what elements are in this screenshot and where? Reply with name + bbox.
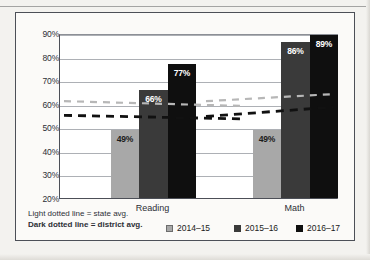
gridline: [60, 35, 337, 36]
legend-item[interactable]: 2016–17: [296, 223, 340, 233]
legend-item[interactable]: 2015–16: [234, 223, 278, 233]
page-top-rule: [0, 6, 370, 7]
legend-item-label: 2016–17: [307, 223, 340, 233]
bar: 86%: [281, 42, 310, 198]
y-axis-tick: 50%: [19, 123, 59, 133]
page-edge-bottom: [0, 254, 370, 260]
y-axis-tick: 60%: [19, 100, 59, 110]
bar: 77%: [168, 64, 197, 198]
legend-swatch-icon: [166, 225, 173, 232]
legend-note-district: Dark dotted line = district avg.: [28, 219, 142, 230]
bar: 49%: [111, 130, 140, 198]
legend-swatch-icon: [296, 225, 303, 232]
legend-swatch-icon: [234, 225, 241, 232]
bar-value-label: 49%: [111, 134, 140, 144]
legend-item-label: 2015–16: [245, 223, 278, 233]
y-axis-tick: 20%: [19, 194, 59, 204]
y-axis-tick: 80%: [19, 53, 59, 63]
legend-note-state: Light dotted line = state avg.: [28, 208, 142, 219]
y-axis-tick: 90%: [19, 29, 59, 39]
bar: 66%: [139, 90, 168, 198]
bar-value-label: 49%: [253, 134, 282, 144]
bar-value-label: 77%: [168, 68, 197, 78]
bar-value-label: 86%: [281, 46, 310, 56]
bar-value-label: 89%: [310, 39, 339, 49]
chart-legend: Light dotted line = state avg. Dark dott…: [16, 206, 356, 240]
bar: 49%: [253, 130, 282, 198]
legend-item[interactable]: 2014–15: [166, 223, 210, 233]
bar: 89%: [310, 35, 339, 198]
page-background: 20%30%40%50%60%70%80%90% 49%66%77%49%86%…: [0, 0, 370, 260]
plot-area: 49%66%77%49%86%89%: [59, 34, 338, 199]
y-axis-tick: 70%: [19, 76, 59, 86]
y-axis-tick: 30%: [19, 170, 59, 180]
legend-item-label: 2014–15: [177, 223, 210, 233]
bar-value-label: 66%: [139, 94, 168, 104]
page-edge-right: [366, 0, 370, 260]
y-axis-tick: 40%: [19, 147, 59, 157]
legend-note: Light dotted line = state avg. Dark dott…: [28, 208, 142, 230]
chart-figure: 20%30%40%50%60%70%80%90% 49%66%77%49%86%…: [15, 12, 355, 241]
